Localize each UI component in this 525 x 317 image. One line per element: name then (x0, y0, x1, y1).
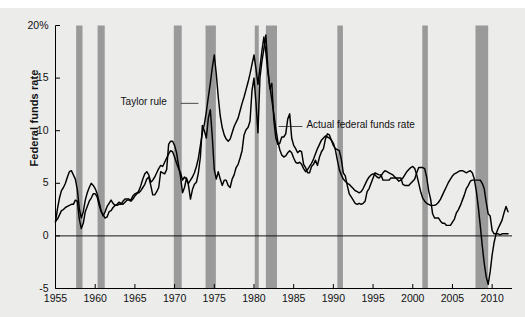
x-tick-label: 2010 (477, 292, 507, 304)
y-tick-label: 15 (37, 71, 49, 83)
y-tick-label: 5 (43, 176, 49, 188)
y-tick-label: 10 (37, 124, 49, 136)
series-line-taylor-rule (56, 37, 509, 284)
x-tick-label: 1990 (318, 292, 348, 304)
x-tick-label: 1965 (120, 292, 150, 304)
x-tick-label: 2005 (437, 292, 467, 304)
x-tick-label: 2000 (398, 292, 428, 304)
y-tick-label: 20% (27, 19, 48, 31)
recession-bar (76, 26, 82, 289)
recession-bar (475, 26, 488, 289)
x-tick-label: 1970 (160, 292, 190, 304)
y-tick-label: 0 (43, 229, 49, 241)
x-tick-label: 1985 (279, 292, 309, 304)
x-tick-label: 1975 (199, 292, 229, 304)
x-tick-label: 1995 (358, 292, 388, 304)
figure-container: Federal funds rate 20%151050-5 195519601… (0, 0, 525, 317)
annotation-taylor-rule: Taylor rule (121, 96, 167, 107)
recession-bars-group (76, 26, 488, 289)
recession-bar (98, 26, 105, 289)
recession-bar (422, 26, 428, 289)
chart-svg (0, 0, 525, 317)
annotation-actual-ffr: Actual federal funds rate (306, 119, 414, 130)
x-tick-label: 1980 (239, 292, 269, 304)
recession-bar (206, 26, 216, 289)
x-tick-label: 1960 (80, 292, 110, 304)
x-tick-label: 1955 (41, 292, 71, 304)
